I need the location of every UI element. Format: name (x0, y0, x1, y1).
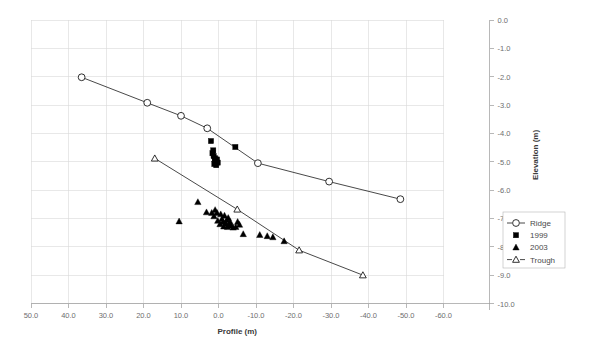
y-tick-label: -1.0 (498, 44, 511, 53)
axis-layer (31, 20, 494, 310)
legend-label-1999: 1999 (530, 231, 548, 240)
data-point-1999 (208, 138, 213, 143)
data-point-ridge (144, 99, 151, 106)
data-point-1999 (211, 148, 216, 153)
legend-marker-open-circle (513, 220, 520, 227)
legend-label-ridge: Ridge (530, 219, 551, 228)
data-point-2003 (240, 231, 246, 237)
y-tick-label: -3.0 (498, 101, 511, 110)
data-point-ridge (254, 160, 261, 167)
data-point-trough (296, 247, 303, 253)
data-point-2003 (176, 218, 182, 224)
x-tick-label: 0.0 (213, 311, 223, 320)
x-axis-title: Profile (m) (217, 327, 257, 336)
data-point-ridge (397, 196, 404, 203)
x-tick-label: -20.0 (285, 311, 302, 320)
x-tick-label: -50.0 (397, 311, 414, 320)
chart-canvas: 50.040.030.020.010.00.0-10.0-20.0-30.0-4… (0, 0, 590, 360)
series-trough (151, 155, 366, 278)
grid-layer (31, 20, 444, 304)
data-point-2003 (203, 209, 209, 215)
x-tick-label: -10.0 (247, 311, 264, 320)
y-tick-label: -2.0 (498, 73, 511, 82)
x-tick-label: 10.0 (174, 311, 189, 320)
x-tick-label: -30.0 (322, 311, 339, 320)
data-point-1999 (212, 161, 217, 166)
y-axis-title: Elevation (m) (531, 130, 540, 181)
data-point-ridge (78, 74, 85, 81)
data-point-2003 (195, 199, 201, 205)
data-point-1999 (233, 144, 238, 149)
legend-marker-filled-square (513, 233, 518, 238)
series-1999 (208, 138, 238, 167)
data-point-2003 (234, 219, 240, 225)
data-point-ridge (178, 112, 185, 119)
data-point-trough (151, 155, 158, 161)
series-ridge (78, 74, 404, 203)
x-tick-label: 40.0 (61, 311, 76, 320)
data-point-ridge (326, 178, 333, 185)
y-tick-label: -4.0 (498, 129, 511, 138)
legend-label-2003: 2003 (530, 243, 548, 252)
elevation-profile-chart: 50.040.030.020.010.00.0-10.0-20.0-30.0-4… (0, 0, 590, 360)
x-tick-label: 50.0 (24, 311, 39, 320)
y-tick-label: -6.0 (498, 186, 511, 195)
data-point-2003 (257, 232, 263, 238)
x-tick-labels: 50.040.030.020.010.00.0-10.0-20.0-30.0-4… (24, 311, 452, 320)
x-tick-label: 20.0 (136, 311, 151, 320)
series-line-trough (155, 158, 363, 275)
x-tick-label: 30.0 (99, 311, 114, 320)
legend-label-trough: Trough (530, 256, 555, 265)
data-point-ridge (204, 125, 211, 132)
data-series-layer (78, 74, 404, 278)
x-tick-label: -60.0 (435, 311, 452, 320)
data-point-trough (359, 272, 366, 278)
data-point-trough (234, 206, 241, 212)
data-point-2003 (264, 233, 270, 239)
y-tick-label: -10.0 (498, 300, 515, 309)
series-line-ridge (82, 77, 401, 199)
x-tick-label: -40.0 (360, 311, 377, 320)
y-tick-label: -9.0 (498, 271, 511, 280)
y-tick-label: -5.0 (498, 158, 511, 167)
chart-legend: Ridge19992003Trough (503, 212, 565, 268)
y-tick-label: 0.0 (498, 16, 508, 25)
